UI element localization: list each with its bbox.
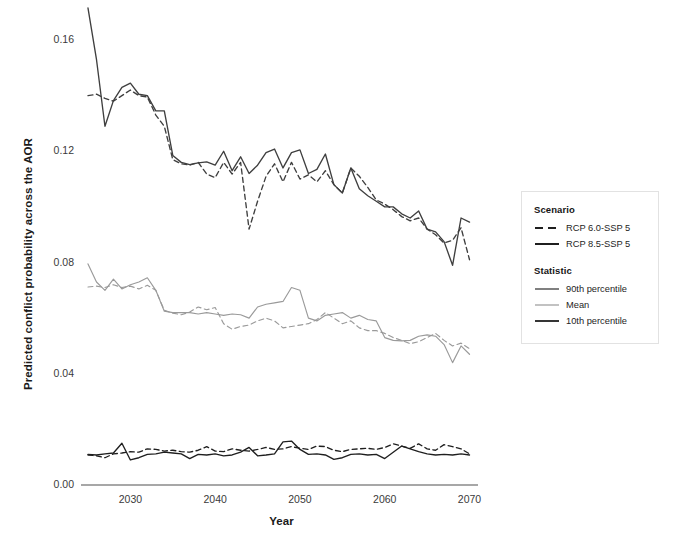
x-axis-tick-label: 2050	[275, 493, 325, 505]
dashed-line-icon	[534, 222, 560, 234]
legend-item-rcp85[interactable]: RCP 8.5-SSP 5	[534, 236, 648, 252]
y-axis-tick-label: 0.16	[28, 33, 74, 45]
legend-label: Mean	[566, 300, 589, 310]
legend-label: RCP 6.0-SSP 5	[566, 223, 630, 233]
x-axis-tick-label: 2030	[105, 493, 155, 505]
y-axis-tick-label: 0.12	[28, 144, 74, 156]
legend-label: 90th percentile	[566, 284, 627, 294]
legend-item-p10[interactable]: 10th percentile	[534, 313, 648, 329]
x-axis-tick-label: 2060	[360, 493, 410, 505]
x-axis-tick-label: 2070	[445, 493, 495, 505]
x-axis-tick-label: 2040	[190, 493, 240, 505]
solid-line-icon	[534, 238, 560, 250]
legend-label: 10th percentile	[566, 316, 627, 326]
legend-group-title-scenario: Scenario	[534, 204, 648, 215]
series-line	[88, 264, 470, 363]
legend-item-p90[interactable]: 90th percentile	[534, 281, 648, 297]
line-swatch-icon	[534, 283, 560, 295]
legend-item-mean[interactable]: Mean	[534, 297, 648, 313]
series-line	[88, 90, 470, 260]
line-swatch-icon	[534, 315, 560, 327]
legend-group-title-statistic: Statistic	[534, 265, 648, 276]
series-line	[88, 441, 470, 460]
legend-label: RCP 8.5-SSP 5	[566, 239, 630, 249]
line-swatch-icon	[534, 299, 560, 311]
legend-item-rcp60[interactable]: RCP 6.0-SSP 5	[534, 220, 648, 236]
series-line	[88, 8, 470, 265]
y-axis-tick-label: 0.04	[28, 367, 74, 379]
y-axis-tick-label: 0.00	[28, 478, 74, 490]
chart-legend: Scenario RCP 6.0-SSP 5 RCP 8.5-SSP 5 Sta…	[521, 191, 659, 344]
y-axis-tick-label: 0.08	[28, 256, 74, 268]
chart-figure: Predicted conflict probability across th…	[0, 0, 683, 557]
